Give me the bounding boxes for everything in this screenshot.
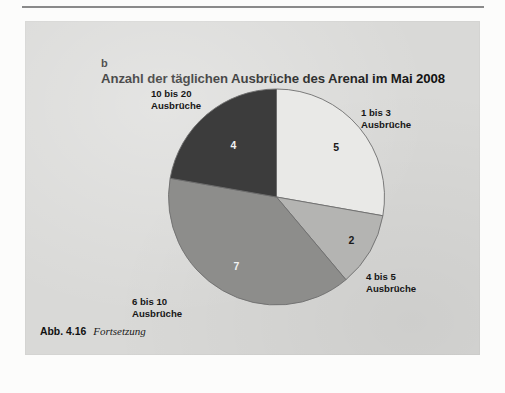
book-page: b Anzahl der täglichen Ausbrüche des Are…: [0, 0, 505, 393]
slice-callout-line-2: Ausbrüche: [151, 100, 201, 112]
slice-callout-line-1: 4 bis 5: [366, 271, 416, 283]
slice-callout-line-2: Ausbrüche: [361, 119, 411, 131]
slice-callout-line-1: 10 bis 20: [151, 88, 201, 100]
slice-callout-line-2: Ausbrüche: [132, 308, 182, 320]
slice-callout-line-1: 6 bis 10: [132, 296, 182, 308]
slice-callout-10-bis-20: 10 bis 20 Ausbrüche: [151, 88, 201, 112]
slice-callout-line-2: Ausbrüche: [366, 283, 416, 295]
slice-callout-6-bis-10: 6 bis 10 Ausbrüche: [132, 296, 182, 320]
slice-callout-line-1: 1 bis 3: [361, 107, 411, 119]
figure-caption-text: Fortsetzung: [93, 325, 146, 337]
slice-callout-4-bis-5: 4 bis 5 Ausbrüche: [366, 271, 416, 295]
panel-label-b: b: [101, 57, 108, 69]
figure-caption-number: Abb. 4.16: [40, 326, 86, 337]
page-top-rule: [22, 6, 484, 8]
slice-callout-1-bis-3: 1 bis 3 Ausbrüche: [361, 107, 411, 131]
figure-panel: b Anzahl der täglichen Ausbrüche des Are…: [25, 21, 480, 355]
chart-title: Anzahl der täglichen Ausbrüche des Arena…: [101, 71, 471, 86]
figure-caption: Abb. 4.16Fortsetzung: [40, 325, 146, 337]
